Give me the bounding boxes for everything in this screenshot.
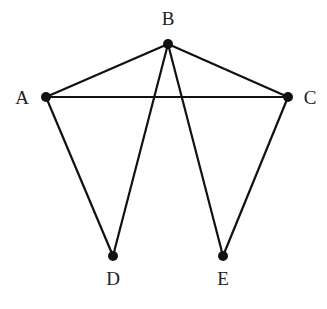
edge-AD	[46, 97, 113, 256]
node-A	[41, 92, 51, 102]
edge-BD	[113, 44, 168, 256]
node-label-E: E	[217, 268, 229, 289]
node-C	[283, 92, 293, 102]
edge-AB	[46, 44, 168, 97]
edges	[46, 44, 288, 256]
node-label-B: B	[162, 8, 175, 29]
node-E	[218, 251, 228, 261]
nodes	[41, 39, 293, 261]
node-label-D: D	[106, 268, 120, 289]
graph-diagram: ABCDE	[0, 0, 327, 309]
node-D	[108, 251, 118, 261]
node-B	[163, 39, 173, 49]
node-label-A: A	[15, 87, 29, 108]
node-label-C: C	[304, 87, 317, 108]
edge-BE	[168, 44, 223, 256]
edge-BC	[168, 44, 288, 97]
edge-CE	[223, 97, 288, 256]
